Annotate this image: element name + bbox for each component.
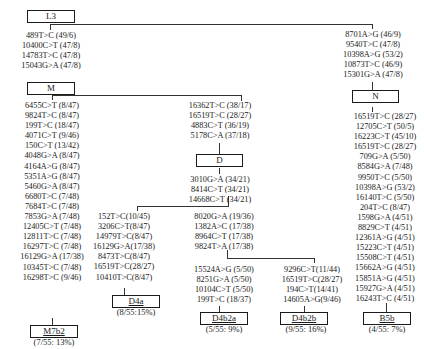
connector-L3-N-horizontal (50, 24, 373, 25)
mutation: 1598G>A (4/51) (336, 213, 424, 223)
mutation: 12705C>T (50/5) (336, 122, 424, 132)
connector-D-below (219, 168, 220, 174)
node-D4b2a-label: D4b2a (212, 313, 236, 323)
caption-D4b2a: (5/55: 9%) (190, 324, 258, 334)
mutation: 152T>C(10/45) (86, 212, 162, 222)
mutation: 8829C>T (4/51) (336, 223, 424, 233)
mutation: 10104C>T (5/50) (174, 285, 274, 295)
mutation: 16140T>C (5/50) (336, 193, 424, 203)
mutation: 16362T>C (38/17) (170, 101, 270, 111)
connector-D4b2-split (227, 258, 315, 259)
connector-D4a-left (137, 206, 138, 211)
mutation: 16519T>C (28/27) (336, 142, 424, 152)
connector-N-B5b-vertical (372, 82, 373, 90)
mutation: 16129G>A(17/38) (86, 242, 162, 252)
mutation: 9824T>A (17/38) (172, 242, 276, 252)
mutations-L3-to-M: 489T>C (49/6) 10400C>T (47/8) 14783T>C (… (2, 31, 100, 71)
mutation: 8473T>C(8/47) (86, 252, 162, 262)
mutation: 4164A>G (8/47) (2, 162, 102, 172)
mutation: 16519T>C (28/27) (170, 111, 270, 121)
mutation: 15851A>G (4/51) (336, 274, 424, 284)
mutation: 9824T>C (8/47) (2, 111, 102, 121)
mutation: 15524A>G (5/50) (174, 265, 274, 275)
mutation: 4883C>T (36/19) (170, 121, 270, 131)
mutation: 15508C>T (4/51) (336, 253, 424, 263)
connector-M-down (52, 95, 53, 100)
mutation: 8584G>A (7/48) (336, 162, 424, 172)
mutation: 15223C>T (4/51) (336, 243, 424, 253)
connector-B5b-top (386, 303, 387, 312)
mutation: 8964C>T (17/38) (172, 232, 276, 242)
mutation: 3010G>A (34/21) (168, 175, 272, 185)
node-M: M (27, 82, 75, 95)
mutation: 8020G>A (19/36) (172, 212, 276, 222)
node-D: D (196, 154, 243, 167)
mutation: 16519T>C(28/27) (86, 262, 162, 272)
connector-D-above (219, 143, 220, 154)
mutation: 14979T>C(8/47) (86, 232, 162, 242)
node-M-label: M (47, 83, 55, 93)
mutation: 15927G>A (4/51) (336, 284, 424, 294)
mutation: 12361A>G (4/51) (336, 233, 424, 243)
mutations-D4b2-to-D4b2a: 15524A>G (5/50) 8251G>A (5/50) 10104C>T … (174, 265, 274, 305)
mutation: 5178C>A (37/18) (170, 131, 270, 141)
mutation: 3206C>T(8/47) (86, 222, 162, 232)
mutations-D-to-D4a: 152T>C(10/45) 3206C>T(8/47) 14979T>C(8/4… (86, 212, 162, 283)
mutation: 1382A>C (17/38) (172, 222, 276, 232)
connector-M-horizontal (52, 95, 242, 96)
mutation: 8251G>A (5/50) (174, 275, 274, 285)
node-D-label: D (216, 155, 223, 165)
node-B5b-label: B5b (379, 313, 394, 323)
mutation: 10873T>C (46/9) (323, 60, 423, 70)
mutation: 16223C>T (45/10) (336, 132, 424, 142)
caption-M7b2: (7/55: 13%) (20, 337, 88, 347)
mutation: 10410T>C(8/47) (86, 273, 162, 283)
connector-L3-down (50, 24, 51, 30)
node-D4a-label: D4a (129, 296, 144, 306)
caption-B5b: (4/55: 7%) (353, 324, 421, 334)
mutation: 709G>A (5/50) (336, 152, 424, 162)
mutation: 15043G>A (47/8) (2, 61, 100, 71)
mutation: 489T>C (49/6) (2, 31, 100, 41)
node-N-label: N (372, 91, 379, 101)
connector-D4b2b-down (314, 258, 315, 263)
mutation: 9950T>C (5/50) (336, 173, 424, 183)
mutation: 16243T>C (4/51) (336, 294, 424, 304)
connector-N-down (372, 24, 373, 29)
mutations-D-to-split: 3010G>A (34/21) 8414C>T (34/21) 14668C>T… (168, 175, 272, 205)
mutation: 199T>C (18/47) (2, 121, 102, 131)
caption-D4b2b: (9/55: 16%) (270, 324, 342, 334)
node-L3-label: L3 (46, 11, 56, 21)
connector-D-split (137, 206, 229, 207)
connector-M7b2-top (52, 318, 53, 325)
mutation: 14668C>T (34/21) (168, 195, 272, 205)
mutation: 8414C>T (34/21) (168, 185, 272, 195)
mutation: 199T>C (18/37) (174, 295, 274, 305)
mutations-M-to-D: 16362T>C (38/17) 16519T>C (28/27) 4883C>… (170, 101, 270, 141)
mutation: 15662A>G (4/51) (336, 263, 424, 273)
mutation: 5351A>G (8/47) (2, 172, 102, 182)
mutation: 14783T>C (47/8) (2, 51, 100, 61)
mutation: 10400C>T (47/8) (2, 41, 100, 51)
mutation: 8701A>G (46/9) (323, 30, 423, 40)
mutation: 10398A>G (53/2) (323, 50, 423, 60)
mutation: 7684T>C (7/48) (2, 202, 102, 212)
mutation: 5460G>A (8/47) (2, 182, 102, 192)
connector-D4a-top (124, 288, 125, 295)
node-N: N (352, 90, 399, 103)
mutations-D-to-D4b2: 8020G>A (19/36) 1382A>C (17/38) 8964C>T … (172, 212, 276, 252)
mutations-L3-to-N: 8701A>G (46/9) 9540T>C (47/8) 10398A>G (… (323, 30, 423, 80)
mutation: 4048G>A (8/47) (2, 151, 102, 161)
mutation: 6680T>C (7/48) (2, 192, 102, 202)
mutation: 204T>C (8/47) (336, 203, 424, 213)
mutation: 6455C>T (8/47) (2, 101, 102, 111)
mutation: 15301G>A (47/8) (323, 70, 423, 80)
mutation: 10398A>G (53/2) (336, 183, 424, 193)
node-L3: L3 (27, 10, 75, 23)
node-D4b2b-label: D4b2b (292, 313, 317, 323)
mutation: 150C>T (13/42) (2, 141, 102, 151)
mutations-N-to-B5b: 16519T>C (28/27) 12705C>T (50/5) 16223C>… (336, 112, 424, 304)
node-M7b2-label: M7b2 (43, 326, 65, 336)
mutation: 4071C>T (9/46) (2, 131, 102, 141)
caption-D4a: (8/55:15%) (100, 307, 172, 317)
